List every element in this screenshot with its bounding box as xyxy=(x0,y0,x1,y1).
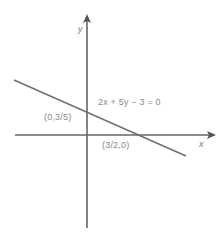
x-axis-label: x xyxy=(199,139,204,149)
equation-annotation: 2x + 5y − 3 = 0 xyxy=(98,97,161,108)
graph-figure: 2x + 5y − 3 = 0 (0,3/5) (3/2,0) y x xyxy=(0,0,224,233)
equation-line xyxy=(14,80,186,156)
x-intercept-annotation: (3/2,0) xyxy=(102,140,129,151)
coordinate-plane xyxy=(0,0,224,233)
y-axis-label: y xyxy=(78,24,83,34)
y-intercept-annotation: (0,3/5) xyxy=(44,112,71,123)
